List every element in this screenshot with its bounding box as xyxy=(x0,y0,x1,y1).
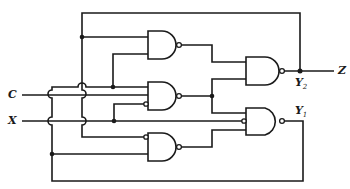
g3-output-wire xyxy=(181,130,246,147)
g2-to-g5-wire xyxy=(212,96,246,113)
nand-gate-3 xyxy=(144,133,182,161)
junction-dot xyxy=(80,35,85,40)
junction-dot xyxy=(210,94,215,99)
y2-junction-dot xyxy=(298,69,303,74)
inverter-bubble xyxy=(144,135,148,139)
junction-dot xyxy=(50,152,55,157)
input-label-x: X xyxy=(8,115,17,126)
input-label-c: C xyxy=(8,89,17,100)
junction-dot xyxy=(111,85,116,90)
state-label-y2: Y2 xyxy=(295,77,307,91)
g2-output-wire xyxy=(181,79,246,96)
state-label-y1: Y1 xyxy=(295,105,307,119)
g1-input-b-wire xyxy=(113,54,148,87)
logic-circuit-diagram: C X Z Y2 Y1 xyxy=(0,0,350,189)
inverter-bubble xyxy=(144,102,148,106)
g1-output-wire xyxy=(181,45,246,62)
g2-input-c-wire xyxy=(114,104,144,121)
inverter-bubble xyxy=(242,119,246,123)
nand-gate-1 xyxy=(148,31,181,59)
nand-gate-y2 xyxy=(246,57,284,85)
nand-gate-y1 xyxy=(242,108,285,135)
output-label-z: Z xyxy=(338,65,346,76)
circuit-schematic xyxy=(0,0,350,189)
nand-gate-2 xyxy=(144,82,182,110)
junction-dot xyxy=(112,119,117,124)
